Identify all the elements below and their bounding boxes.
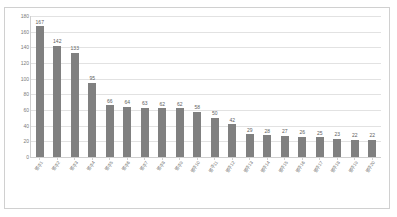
bar-value-label: 62 xyxy=(177,102,183,107)
bar[interactable] xyxy=(263,135,271,157)
x-axis-tick-label: 범주6 xyxy=(121,160,131,172)
x-axis-tick-label: 범주3 xyxy=(69,160,79,172)
bar[interactable] xyxy=(333,139,341,157)
bar-value-label: 64 xyxy=(124,100,130,105)
bar-value-label: 50 xyxy=(212,111,218,116)
bar[interactable] xyxy=(123,107,131,157)
x-axis-tick-label: 범주16 xyxy=(295,160,307,174)
xlabel-slot: 범주17 xyxy=(311,160,329,206)
y-axis-tick-label: 140 xyxy=(7,45,29,50)
x-axis-tick-label: 범주14 xyxy=(260,160,272,174)
bar-slot: 22 xyxy=(364,16,382,157)
bar-slot: 50 xyxy=(206,16,224,157)
bar-value-label: 22 xyxy=(352,133,358,138)
bar[interactable] xyxy=(228,124,236,157)
bar-slot: 25 xyxy=(311,16,329,157)
bar[interactable] xyxy=(316,137,324,157)
bar[interactable] xyxy=(193,112,201,157)
bar-slot: 28 xyxy=(259,16,277,157)
bar[interactable] xyxy=(36,26,44,157)
y-axis-tick-label: 20 xyxy=(7,139,29,144)
xlabel-slot: 범주7 xyxy=(136,160,154,206)
x-axis-tick-label: 범주7 xyxy=(139,160,149,172)
x-axis-tick-label: 범주9 xyxy=(174,160,184,172)
xlabel-slot: 범주11 xyxy=(206,160,224,206)
x-axis-tick-label: 범주5 xyxy=(104,160,114,172)
bar-slot: 62 xyxy=(171,16,189,157)
bar-slot: 26 xyxy=(294,16,312,157)
bar-value-label: 29 xyxy=(247,128,253,133)
bar[interactable] xyxy=(246,134,254,157)
bar-slot: 29 xyxy=(241,16,259,157)
bar[interactable] xyxy=(281,136,289,157)
bar-slot: 23 xyxy=(329,16,347,157)
bar-slot: 63 xyxy=(136,16,154,157)
x-axis-tick-labels: 범주1범주2범주3범주4범주5범주6범주7범주8범주9범주10범주11범주12범… xyxy=(31,160,381,206)
xlabel-slot: 범주18 xyxy=(329,160,347,206)
x-axis-tick-label: 범주15 xyxy=(277,160,289,174)
x-axis-tick-label: 범주19 xyxy=(347,160,359,174)
bar[interactable] xyxy=(158,108,166,157)
xlabel-slot: 범주19 xyxy=(346,160,364,206)
x-axis-tick-label: 범주18 xyxy=(330,160,342,174)
xlabel-slot: 범주2 xyxy=(49,160,67,206)
bar[interactable] xyxy=(106,105,114,157)
bar-slot: 22 xyxy=(346,16,364,157)
x-axis-tick-label: 범주10 xyxy=(190,160,202,174)
xlabel-slot: 범주16 xyxy=(294,160,312,206)
bar-value-label: 95 xyxy=(89,76,95,81)
xlabel-slot: 범주9 xyxy=(171,160,189,206)
bar-value-label: 22 xyxy=(369,133,375,138)
bar[interactable] xyxy=(298,137,306,157)
xlabel-slot: 범주8 xyxy=(154,160,172,206)
bar[interactable] xyxy=(368,140,376,157)
bar-value-label: 42 xyxy=(229,118,235,123)
bar[interactable] xyxy=(211,118,219,157)
x-axis-tick-label: 범주17 xyxy=(312,160,324,174)
bar-slot: 167 xyxy=(31,16,49,157)
x-axis-tick-label: 범주11 xyxy=(207,160,218,173)
xlabel-slot: 범주12 xyxy=(224,160,242,206)
xlabel-slot: 범주20 xyxy=(364,160,382,206)
xlabel-slot: 범주4 xyxy=(84,160,102,206)
bar[interactable] xyxy=(71,53,79,157)
bar[interactable] xyxy=(351,140,359,157)
bar-value-label: 25 xyxy=(317,131,323,136)
y-axis-tick-label: 0 xyxy=(7,155,29,160)
xlabel-slot: 범주6 xyxy=(119,160,137,206)
x-axis-tick-label: 범주12 xyxy=(225,160,237,174)
y-axis-tick-labels: 020406080100120140160180 xyxy=(7,16,29,157)
bar-slot: 27 xyxy=(276,16,294,157)
bar-slot: 95 xyxy=(84,16,102,157)
bar-value-label: 133 xyxy=(71,46,79,51)
bar-value-label: 62 xyxy=(159,102,165,107)
bar-value-label: 63 xyxy=(142,101,148,106)
x-axis-tick-label: 범주4 xyxy=(86,160,96,172)
bar[interactable] xyxy=(88,83,96,157)
x-axis-tick-label: 범주13 xyxy=(242,160,254,174)
bar-value-label: 58 xyxy=(194,105,200,110)
bar-value-label: 28 xyxy=(264,129,270,134)
bar-slot: 64 xyxy=(119,16,137,157)
y-axis-tick-label: 120 xyxy=(7,61,29,66)
chart-plot-area: 020406080100120140160180 167142133956664… xyxy=(5,8,389,208)
bar-slot: 62 xyxy=(154,16,172,157)
bar-slot: 133 xyxy=(66,16,84,157)
xlabel-slot: 범주3 xyxy=(66,160,84,206)
xlabel-slot: 범주5 xyxy=(101,160,119,206)
bar-slot: 66 xyxy=(101,16,119,157)
xlabel-slot: 범주15 xyxy=(276,160,294,206)
bar[interactable] xyxy=(141,108,149,157)
bar-value-label: 66 xyxy=(107,99,113,104)
bar[interactable] xyxy=(176,108,184,157)
xlabel-slot: 범주14 xyxy=(259,160,277,206)
x-axis-tick-label: 범주20 xyxy=(365,160,377,174)
y-axis-tick-label: 60 xyxy=(7,108,29,113)
y-axis-tick-label: 100 xyxy=(7,76,29,81)
y-axis-tick-label: 180 xyxy=(7,14,29,19)
bar-value-label: 142 xyxy=(53,39,61,44)
bar-slot: 142 xyxy=(49,16,67,157)
y-axis-tick-label: 160 xyxy=(7,29,29,34)
bar[interactable] xyxy=(53,46,61,157)
bar-slot: 58 xyxy=(189,16,207,157)
